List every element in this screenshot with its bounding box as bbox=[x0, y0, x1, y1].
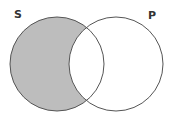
venn-diagram: S P bbox=[0, 0, 170, 118]
label-p: P bbox=[148, 9, 156, 22]
circle-p bbox=[69, 17, 163, 111]
label-s: S bbox=[14, 8, 22, 21]
